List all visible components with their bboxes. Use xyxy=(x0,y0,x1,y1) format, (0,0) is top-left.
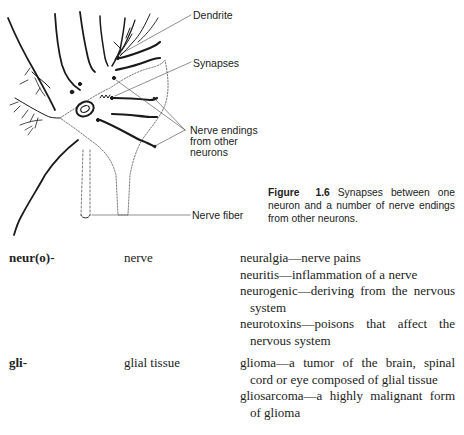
term-definitions: glioma—a tumor of the brain, spinal cord… xyxy=(240,355,455,421)
label-synapses: Synapses xyxy=(193,58,239,69)
term-meaning: glial tissue xyxy=(124,355,180,372)
definition-item: glioma—a tumor of the brain, spinal cord… xyxy=(240,355,455,388)
term-root: neur(o)- xyxy=(9,250,55,267)
definition-item: neurotoxins—poisons that affect the nerv… xyxy=(240,316,455,349)
figure-label: Figure xyxy=(268,187,299,198)
label-nerve-endings: Nerve endings from other neurons xyxy=(190,125,258,158)
definition-item: neuritis—inflammation of a nerve xyxy=(240,267,455,284)
figure-number: 1.6 xyxy=(315,187,329,198)
figure-caption: Figure 1.6 Synapses between one neuron a… xyxy=(268,186,455,225)
definition-item: gliosarcoma—a highly malignant form of g… xyxy=(240,388,455,421)
label-nerve-fiber: Nerve fiber xyxy=(192,210,243,221)
term-root: gli- xyxy=(9,355,27,372)
label-dendrite: Dendrite xyxy=(193,10,233,21)
neuron-figure: Dendrite Synapses Nerve endings from oth… xyxy=(0,0,464,245)
definition-item: neurogenic—deriving from the nervous sys… xyxy=(240,283,455,316)
term-meaning: nerve xyxy=(124,250,153,267)
label-nerve-endings-line3: neurons xyxy=(190,147,258,158)
term-definitions: neuralgia—nerve pains neuritis—inflammat… xyxy=(240,250,455,349)
definition-item: neuralgia—nerve pains xyxy=(240,250,455,267)
